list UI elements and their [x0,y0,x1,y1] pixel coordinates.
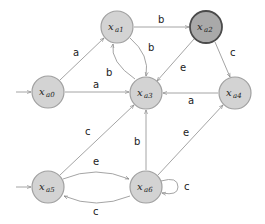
svg-text:a: a [188,95,194,106]
svg-text:b: b [134,136,140,147]
svg-text:c: c [184,181,190,192]
svg-text:a4: a4 [233,92,242,100]
svg-text:e: e [180,62,186,73]
svg-text:a6: a6 [144,186,153,194]
state-diagram: a a b b b e c a c e c b [0,0,265,224]
edge-xa3-xa1: b [106,44,135,79]
node-xa6[interactable]: x a6 [130,171,162,203]
svg-text:x: x [137,181,143,192]
svg-text:a: a [93,79,99,90]
edge-xa1-xa2: b [134,14,189,27]
node-xa2[interactable]: x a2 [190,11,222,43]
svg-text:a: a [73,47,79,58]
svg-text:b: b [106,67,112,78]
svg-text:x: x [226,87,232,98]
edge-xa1-xa3: b [130,38,154,76]
edge-xa2-xa4: c [215,42,236,77]
svg-text:c: c [93,206,99,217]
edge-xa2-xa3: e [157,39,194,81]
svg-text:e: e [183,127,189,138]
node-xa1[interactable]: x a1 [101,11,133,43]
svg-text:a5: a5 [46,186,55,194]
edge-xa6-self-loop: c [161,179,190,193]
node-xa3[interactable]: x a3 [130,77,162,109]
svg-text:x: x [197,21,203,32]
svg-text:b: b [148,42,154,53]
svg-text:x: x [108,21,114,32]
edge-xa0-xa1: a [60,38,104,80]
svg-text:x: x [137,87,143,98]
svg-text:a3: a3 [144,92,153,100]
node-xa4[interactable]: x a4 [219,77,251,109]
edge-xa6-xa4: e [158,105,223,175]
svg-text:c: c [230,47,236,58]
edge-xa6-xa3: b [134,110,146,170]
svg-text:a1: a1 [115,26,124,34]
edge-xa4-xa3: a [163,93,218,106]
edge-xa6-xa5: c [64,196,130,217]
edge-xa5-xa6: e [63,156,129,179]
edge-xa0-xa3: a [65,79,129,92]
svg-text:a2: a2 [204,26,213,34]
node-xa5[interactable]: x a5 [32,171,64,203]
svg-text:x: x [39,181,45,192]
svg-text:c: c [85,126,91,137]
svg-text:e: e [93,156,99,167]
svg-text:x: x [39,86,45,97]
svg-text:b: b [158,14,164,25]
node-xa0[interactable]: x a0 [32,76,64,108]
svg-text:a0: a0 [46,91,55,99]
